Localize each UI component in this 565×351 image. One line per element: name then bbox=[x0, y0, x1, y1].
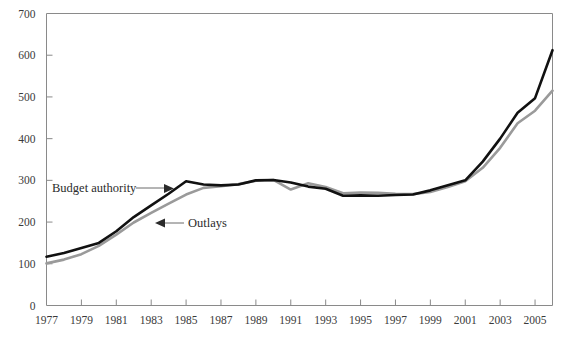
y-tick-label: 600 bbox=[18, 49, 36, 61]
outlays-line bbox=[47, 91, 553, 264]
outlays-arrow-icon bbox=[155, 219, 165, 228]
x-tick-label: 1999 bbox=[419, 314, 442, 326]
x-tick-label: 1985 bbox=[175, 314, 198, 326]
data-series-group bbox=[47, 50, 553, 263]
y-tick-label: 100 bbox=[18, 258, 36, 270]
x-tick-label: 1991 bbox=[279, 314, 302, 326]
x-tick-label: 1993 bbox=[314, 314, 337, 326]
x-tick-label: 1977 bbox=[35, 314, 58, 326]
y-tick-label: 300 bbox=[18, 174, 36, 186]
y-tick-label: 200 bbox=[18, 216, 36, 228]
x-axis-labels: 1977197919811983198519871989199119931995… bbox=[35, 314, 547, 326]
chart-canvas: 0100200300400500600700 19771979198119831… bbox=[0, 0, 565, 351]
outlays-label: Outlays bbox=[188, 216, 227, 230]
x-tick-label: 1997 bbox=[384, 314, 407, 326]
x-tick-label: 1981 bbox=[105, 314, 128, 326]
y-tick-label: 500 bbox=[18, 91, 36, 103]
x-tick-label: 1995 bbox=[349, 314, 372, 326]
plot-frame bbox=[47, 14, 553, 306]
y-tick-label: 400 bbox=[18, 133, 36, 145]
x-tick-label: 1989 bbox=[244, 314, 267, 326]
x-tick-label: 2005 bbox=[524, 314, 547, 326]
x-tick-label: 1987 bbox=[209, 314, 232, 326]
x-tick-label: 1983 bbox=[140, 314, 163, 326]
budget-authority-line bbox=[47, 50, 553, 256]
x-tick-label: 1979 bbox=[70, 314, 93, 326]
x-tick-label: 2003 bbox=[489, 314, 512, 326]
y-axis-ticks bbox=[47, 55, 53, 264]
x-tick-label: 2001 bbox=[454, 314, 477, 326]
y-tick-label: 0 bbox=[30, 300, 36, 312]
y-tick-label: 700 bbox=[18, 8, 36, 20]
budget-authority-label: Budget authority bbox=[52, 181, 137, 195]
line-chart: 0100200300400500600700 19771979198119831… bbox=[0, 0, 565, 351]
x-axis-ticks bbox=[81, 300, 535, 306]
y-axis-labels: 0100200300400500600700 bbox=[18, 8, 36, 312]
